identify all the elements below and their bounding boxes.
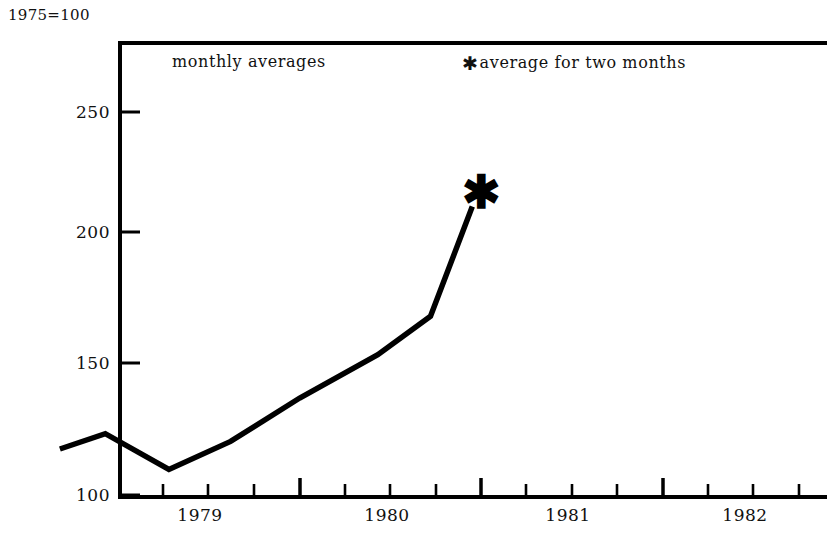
chart-figure: 1975=100 monthly averages ✱average for t…	[0, 0, 827, 540]
x-axis-major-ticks	[300, 478, 663, 497]
plot-canvas: ✱	[0, 0, 827, 540]
axis-frame	[118, 43, 827, 497]
two-month-average-asterisk-icon: ✱	[462, 165, 501, 219]
y-axis-ticks	[120, 112, 140, 495]
